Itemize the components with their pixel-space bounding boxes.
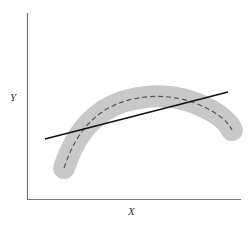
data-band (64, 96, 232, 168)
y-axis-label: Y (10, 91, 16, 103)
diagram-canvas (0, 0, 250, 226)
x-axis-label: X (128, 205, 135, 217)
